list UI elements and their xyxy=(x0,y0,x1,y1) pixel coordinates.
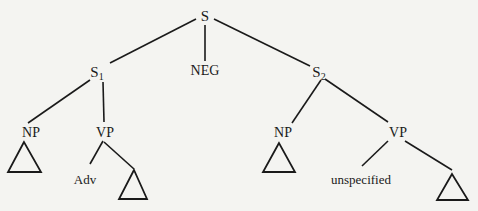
node-adv: Adv xyxy=(74,172,97,187)
node-root-s: S xyxy=(201,8,209,24)
edge-vp2-sub xyxy=(405,141,452,170)
edge-vp1-sub xyxy=(104,142,134,169)
edge-s1-np xyxy=(28,80,90,123)
vp2-triangle-icon xyxy=(437,174,468,200)
node-s2: S2 xyxy=(312,64,325,82)
np2-triangle-icon xyxy=(263,143,295,172)
vp1-triangle-icon xyxy=(119,170,147,199)
syntax-tree-diagram: S S1 NEG S2 NP VP Adv NP VP unspecified xyxy=(0,0,478,211)
edge-s2-vp xyxy=(325,79,388,122)
tree-edges xyxy=(28,19,452,170)
node-s1-np: NP xyxy=(22,125,40,140)
edge-s-s2 xyxy=(214,19,310,66)
edge-vp1-adv xyxy=(90,141,103,164)
edge-vp2-unspecified xyxy=(362,141,388,166)
edge-s2-np xyxy=(292,80,321,123)
node-s1: S1 xyxy=(90,64,103,82)
edge-s1-vp xyxy=(103,82,104,122)
tree-labels: S S1 NEG S2 NP VP Adv NP VP unspecified xyxy=(22,8,407,187)
edge-s-s1 xyxy=(110,19,196,63)
node-unspecified: unspecified xyxy=(331,172,391,187)
node-s2-np: NP xyxy=(274,125,292,140)
node-s1-vp: VP xyxy=(96,125,114,140)
node-neg: NEG xyxy=(191,63,220,78)
node-s2-vp: VP xyxy=(389,125,407,140)
np1-triangle-icon xyxy=(8,142,41,172)
tree-triangles xyxy=(8,142,468,200)
